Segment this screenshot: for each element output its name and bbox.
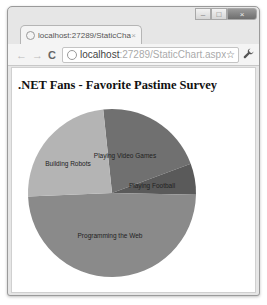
tab-title: localhost:27289/StaticChar: [38, 31, 131, 40]
tab-close-icon[interactable]: ×: [131, 31, 136, 40]
browser-toolbar: ← → C localhost :27289/StaticChart.aspx …: [8, 44, 259, 66]
globe-icon: [67, 50, 77, 60]
slice-label: Playing Video Games: [94, 152, 157, 160]
slice-label: Building Robots: [45, 160, 91, 168]
pie-chart: Playing Video GamesPlaying FootballProgr…: [12, 68, 257, 294]
address-bar[interactable]: localhost :27289/StaticChart.aspx ☆: [62, 47, 239, 63]
browser-tab[interactable]: localhost:27289/StaticChar ×: [20, 25, 142, 45]
maximize-button[interactable]: □: [211, 8, 227, 20]
forward-arrow-icon[interactable]: →: [32, 49, 43, 61]
browser-window: – □ × localhost:27289/StaticChar × ← → C…: [7, 6, 260, 296]
wrench-menu-icon[interactable]: [243, 48, 254, 62]
slice-label: Programming the Web: [78, 232, 143, 240]
reload-icon[interactable]: C: [48, 49, 56, 61]
bookmark-star-icon[interactable]: ☆: [226, 49, 235, 60]
url-path: :27289/StaticChart.aspx: [119, 49, 226, 60]
back-arrow-icon[interactable]: ←: [16, 49, 27, 61]
minimize-button[interactable]: –: [195, 8, 211, 20]
slice-label: Playing Football: [129, 182, 176, 190]
page-content: .NET Fans - Favorite Pastime Survey Play…: [11, 67, 256, 293]
globe-icon: [26, 31, 35, 40]
window-controls: – □ ×: [195, 8, 257, 20]
close-window-button[interactable]: ×: [227, 8, 257, 20]
url-host: localhost: [80, 49, 119, 60]
